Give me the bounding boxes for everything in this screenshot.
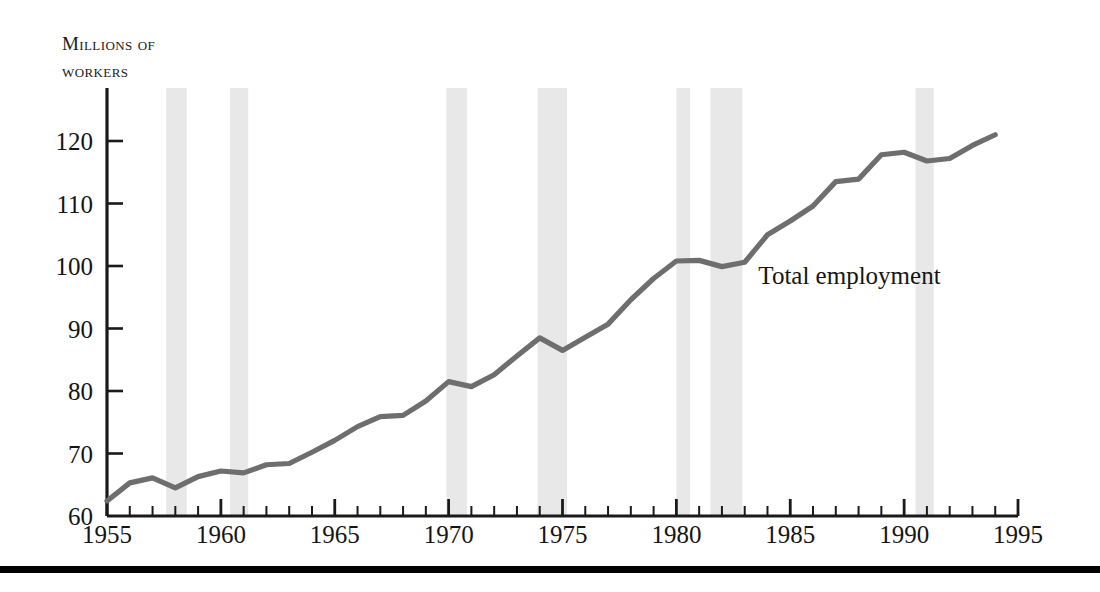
series-annotation-label: Total employment [758, 262, 940, 289]
x-tick-label: 1975 [538, 521, 588, 548]
y-tick-label: 100 [56, 253, 94, 280]
chart-page: Millions of workers 60708090100110120 19… [0, 0, 1100, 592]
y-tick-label: 110 [56, 191, 93, 218]
x-tick-label: 1960 [196, 521, 246, 548]
x-tick-labels-group: 195519601965197019751980198519901995 [82, 521, 1043, 548]
y-tick-label: 70 [68, 441, 93, 468]
x-tick-label: 1980 [651, 521, 701, 548]
x-tick-label: 1990 [879, 521, 929, 548]
y-tick-label: 80 [68, 378, 93, 405]
recession-band [711, 88, 743, 516]
recession-band [166, 88, 186, 516]
employment-line-chart: 60708090100110120 1955196019651970197519… [0, 0, 1100, 560]
x-tick-label: 1965 [310, 521, 360, 548]
y-tick-label: 120 [56, 128, 94, 155]
y-tick-labels-group: 60708090100110120 [56, 128, 94, 530]
series-annotation-group: Total employment [758, 262, 940, 289]
x-tick-label: 1995 [993, 521, 1043, 548]
recession-band [537, 88, 567, 516]
recession-band [230, 88, 248, 516]
y-tick-label: 90 [68, 316, 93, 343]
recession-band [676, 88, 690, 516]
bottom-divider-rule [0, 566, 1100, 573]
recession-bands-group [166, 88, 934, 516]
x-tick-label: 1985 [765, 521, 815, 548]
x-tick-label: 1955 [82, 521, 132, 548]
recession-band [916, 88, 934, 516]
recession-band [446, 88, 466, 516]
x-tick-label: 1970 [424, 521, 474, 548]
